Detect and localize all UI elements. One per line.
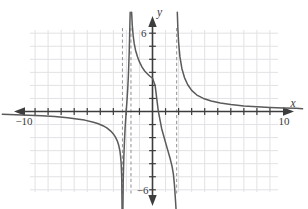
- x-axis-label: x: [289, 97, 296, 109]
- y-axis-arrow-up: [148, 16, 156, 27]
- curve-center-branch: [132, 12, 177, 209]
- axis-labels: xy−10106−6: [15, 6, 296, 196]
- y-axis-label: y: [156, 6, 163, 19]
- coordinate-plane-svg: xy−10106−6: [0, 0, 308, 209]
- y-axis-arrow-down: [148, 195, 156, 206]
- x-tick-label-neg10: −10: [15, 115, 33, 127]
- y-tick-label-neg6: −6: [137, 184, 149, 196]
- curve-left-branch: [2, 114, 122, 209]
- curve-right-branch: [177, 12, 302, 108]
- x-axis: [14, 107, 294, 115]
- x-tick-label-pos10: 10: [279, 115, 291, 127]
- y-tick-label-pos6: 6: [141, 27, 147, 39]
- graph-figure: xy−10106−6: [0, 0, 308, 209]
